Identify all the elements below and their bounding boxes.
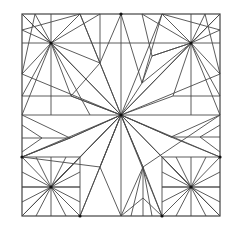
crease-line [51, 115, 121, 187]
crease-line [205, 14, 220, 74]
crease-line [22, 125, 42, 138]
crease-line [100, 167, 121, 216]
crease-line [22, 172, 51, 187]
crease-line [121, 96, 173, 115]
crease-line [143, 167, 162, 216]
crease-line [143, 167, 152, 216]
crease-line [191, 157, 220, 187]
crease-line [22, 30, 51, 43]
vertex-top-mid [119, 12, 122, 15]
crease-line [191, 30, 220, 43]
vertex-right-mid [218, 155, 221, 158]
crease-line [51, 172, 80, 187]
crease-line [121, 14, 162, 115]
crease-line [162, 157, 191, 187]
crease-line [121, 167, 143, 216]
crease-line [71, 96, 121, 115]
crease-line [143, 115, 220, 167]
crease-line [51, 43, 90, 115]
vertex-bottom-right [189, 185, 192, 188]
crease-pattern-diagram [0, 0, 236, 229]
crease-line [142, 14, 152, 56]
crease-line [80, 167, 100, 216]
crease-line [22, 187, 51, 216]
crease-line [162, 187, 191, 216]
crease-line [142, 14, 162, 83]
crease-line [131, 167, 143, 216]
crease-line [191, 172, 220, 187]
crease-line [176, 157, 191, 187]
vertex-top-right [189, 41, 192, 44]
crease-line [22, 157, 100, 167]
crease-line [22, 14, 35, 74]
crease-line [51, 43, 71, 96]
crease-line [51, 187, 80, 216]
crease-line [143, 198, 162, 216]
crease-line [35, 14, 51, 43]
vertex-bottom-mid-left [78, 214, 81, 217]
vertex-bottom-left [49, 185, 52, 188]
vertex-bottom-mid-right [160, 214, 163, 217]
crease-line [121, 14, 142, 83]
crease-line [173, 43, 191, 96]
crease-line [22, 115, 70, 138]
crease-line [121, 74, 220, 115]
crease-pattern-svg [0, 0, 236, 229]
crease-line [121, 43, 191, 115]
crease-line [36, 157, 51, 187]
crease-line [171, 115, 220, 137]
crease-line [100, 14, 121, 63]
vertex-center [119, 113, 122, 116]
crease-line [191, 157, 206, 187]
vertex-top-left [49, 41, 52, 44]
crease-line [162, 172, 191, 187]
crease-line [191, 14, 205, 43]
vertex-left-mid [20, 155, 23, 158]
crease-line [22, 157, 51, 187]
crease-line [191, 43, 220, 115]
crease-line [191, 187, 220, 216]
